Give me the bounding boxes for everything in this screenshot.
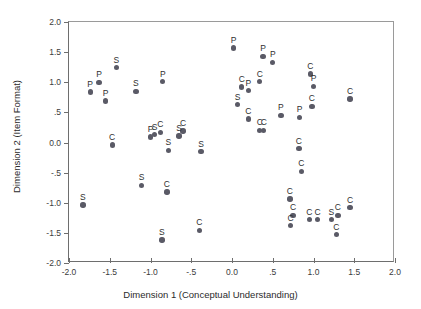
data-point-label: C [164, 179, 170, 188]
data-point [166, 148, 171, 153]
data-point-label: C [309, 94, 315, 103]
data-point [335, 213, 340, 218]
x-tick-label: 2.0 [389, 267, 401, 277]
x-tick-label: -.5 [186, 267, 196, 277]
data-point-label: P [245, 78, 251, 87]
y-tick-mark [64, 112, 69, 113]
data-point [164, 189, 169, 194]
data-point [347, 96, 352, 101]
data-point [260, 54, 265, 59]
y-tick-mark [64, 22, 69, 23]
x-tick-mark [314, 258, 315, 263]
data-point [103, 98, 108, 103]
data-point-label: C [347, 195, 353, 204]
y-tick-mark [64, 82, 69, 83]
data-point [235, 102, 240, 107]
data-point-label: C [333, 222, 339, 231]
x-tick-mark [110, 258, 111, 263]
data-point-label: S [139, 173, 145, 182]
y-tick-mark [64, 143, 69, 144]
data-point-label: C [298, 159, 304, 168]
data-point-label: S [80, 193, 86, 202]
data-point-label: C [261, 118, 267, 127]
data-point [261, 128, 266, 133]
data-point [307, 217, 312, 222]
x-tick-mark [354, 258, 355, 263]
y-tick-label: -1.0 [46, 198, 61, 208]
x-tick-mark [151, 258, 152, 263]
y-tick-label: -.5 [51, 168, 61, 178]
x-tick-label: -2.0 [62, 267, 77, 277]
data-point-label: C [296, 136, 302, 145]
y-tick-label: 1.0 [49, 77, 61, 87]
data-point [88, 89, 93, 94]
data-point-label: S [133, 79, 139, 88]
y-tick-mark [64, 233, 69, 234]
data-point-label: P [278, 103, 284, 112]
data-point [334, 232, 339, 237]
data-point [257, 79, 262, 84]
data-point-label: P [87, 79, 93, 88]
data-point [296, 146, 301, 151]
data-point-label: S [235, 92, 241, 101]
data-point-label: S [113, 55, 119, 64]
data-point-label: C [290, 203, 296, 212]
y-tick-mark [64, 173, 69, 174]
data-point [197, 228, 202, 233]
data-point [246, 116, 251, 121]
data-point-label: P [270, 50, 276, 59]
data-point-label: C [335, 203, 341, 212]
y-tick-label: -2.0 [46, 258, 61, 268]
data-point-label: P [260, 44, 266, 53]
data-point-label: P [103, 88, 109, 97]
data-point [299, 169, 304, 174]
data-point [176, 133, 181, 138]
data-point [114, 65, 119, 70]
y-tick-label: 0.0 [49, 138, 61, 148]
data-point-label: C [245, 107, 251, 116]
data-point-label: P [148, 125, 154, 134]
y-tick-label: 2.0 [49, 17, 61, 27]
x-tick-label: 0.0 [226, 267, 238, 277]
y-tick-label: 1.5 [49, 47, 61, 57]
data-point-label: S [159, 228, 165, 237]
x-tick-mark [273, 258, 274, 263]
data-point [110, 142, 115, 147]
data-point [288, 223, 293, 228]
data-point-label: S [166, 138, 172, 147]
x-axis-title: Dimension 1 (Conceptual Understanding) [0, 289, 421, 300]
data-point [96, 80, 101, 85]
y-tick-mark [64, 52, 69, 53]
data-point-label: P [160, 69, 166, 78]
y-axis-title: Dimension 2 (Item Format) [11, 57, 22, 217]
data-point [158, 130, 163, 135]
data-point [133, 89, 138, 94]
data-point [239, 84, 244, 89]
x-tick-label: 1.5 [348, 267, 360, 277]
data-point [148, 134, 153, 139]
data-point-label: C [157, 120, 163, 129]
data-point-label: C [314, 207, 320, 216]
data-point-label: C [307, 61, 313, 70]
data-point [347, 205, 352, 210]
data-point [311, 84, 316, 89]
data-point [270, 60, 275, 65]
data-point-label: P [96, 70, 102, 79]
data-point-label: P [311, 74, 317, 83]
data-point [160, 79, 165, 84]
data-point [297, 115, 302, 120]
data-point-label: P [297, 105, 303, 114]
data-point-label: C [196, 218, 202, 227]
x-tick-mark [232, 258, 233, 263]
y-tick-label: .5 [54, 107, 61, 117]
x-tick-mark [191, 258, 192, 263]
data-point-label: C [306, 207, 312, 216]
plot-area: 2.01.51.0.50.0-.5-1.0-1.5-2.0 -2.0-1.5-1… [68, 21, 394, 262]
x-tick-label: -1.0 [143, 267, 158, 277]
x-tick-mark [69, 258, 70, 263]
data-point [198, 149, 203, 154]
data-point-label: C [239, 75, 245, 84]
data-point [246, 88, 251, 93]
data-point-label: C [287, 187, 293, 196]
data-point-label: C [288, 213, 294, 222]
